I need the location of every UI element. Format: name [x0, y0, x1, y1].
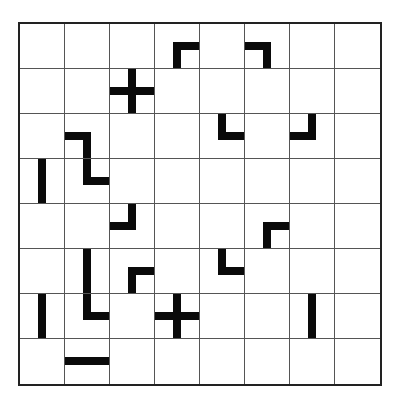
pipe-arm-down — [308, 312, 316, 338]
grid-cell-r5-c4[interactable] — [200, 249, 245, 294]
grid-cell-r7-c0[interactable] — [20, 339, 65, 384]
pipe-arm-down — [173, 42, 181, 68]
corner-pipe-icon — [155, 24, 199, 68]
grid-cell-r1-c5[interactable] — [245, 69, 290, 114]
pipe-arm-right — [128, 87, 154, 95]
corner-pipe-icon — [245, 204, 289, 248]
grid-cell-r5-c5[interactable] — [245, 249, 290, 294]
grid-cell-r2-c0[interactable] — [20, 114, 65, 159]
grid-cell-r5-c6[interactable] — [290, 249, 335, 294]
cross-pipe-icon — [155, 294, 199, 338]
grid-cell-r6-c3[interactable] — [155, 294, 200, 339]
pipe-arm-down — [38, 177, 46, 203]
pipe-arm-down — [263, 222, 271, 248]
grid-cell-r0-c1[interactable] — [65, 24, 110, 69]
cross-pipe-icon — [110, 69, 154, 113]
corner-pipe-icon — [65, 159, 109, 203]
grid-cell-r0-c7[interactable] — [335, 24, 380, 69]
pipe-arm-down — [128, 267, 136, 293]
corner-pipe-icon — [245, 24, 289, 68]
grid-cell-r0-c3[interactable] — [155, 24, 200, 69]
straight-pipe-icon — [20, 159, 64, 203]
corner-pipe-icon — [110, 249, 154, 293]
puzzle-board — [18, 22, 382, 386]
grid-cell-r0-c0[interactable] — [20, 24, 65, 69]
grid-cell-r3-c2[interactable] — [110, 159, 155, 204]
grid-cell-r2-c3[interactable] — [155, 114, 200, 159]
straight-pipe-icon — [65, 339, 109, 384]
grid-cell-r5-c2[interactable] — [110, 249, 155, 294]
pipe-arm-down — [83, 267, 91, 293]
grid-cell-r3-c3[interactable] — [155, 159, 200, 204]
grid-cell-r7-c5[interactable] — [245, 339, 290, 384]
grid-cell-r7-c7[interactable] — [335, 339, 380, 384]
straight-pipe-icon — [290, 294, 334, 338]
grid-cell-r7-c2[interactable] — [110, 339, 155, 384]
grid-cell-r1-c1[interactable] — [65, 69, 110, 114]
grid-cell-r0-c5[interactable] — [245, 24, 290, 69]
corner-pipe-icon — [200, 114, 244, 158]
grid-cell-r5-c1[interactable] — [65, 249, 110, 294]
grid-cell-r6-c0[interactable] — [20, 294, 65, 339]
corner-pipe-icon — [110, 204, 154, 248]
grid-cell-r4-c6[interactable] — [290, 204, 335, 249]
grid-cell-r0-c6[interactable] — [290, 24, 335, 69]
grid-cell-r1-c4[interactable] — [200, 69, 245, 114]
grid-cell-r4-c4[interactable] — [200, 204, 245, 249]
grid-cell-r4-c7[interactable] — [335, 204, 380, 249]
grid-cell-r6-c5[interactable] — [245, 294, 290, 339]
pipe-arm-down — [83, 132, 91, 158]
grid-cell-r1-c7[interactable] — [335, 69, 380, 114]
grid-cell-r3-c4[interactable] — [200, 159, 245, 204]
grid-cell-r3-c0[interactable] — [20, 159, 65, 204]
grid-cell-r6-c6[interactable] — [290, 294, 335, 339]
pipe-arm-down — [263, 42, 271, 68]
corner-pipe-icon — [65, 114, 109, 158]
grid-cell-r3-c5[interactable] — [245, 159, 290, 204]
grid-cell-r4-c2[interactable] — [110, 204, 155, 249]
grid-cell-r7-c1[interactable] — [65, 339, 110, 384]
grid-cell-r4-c3[interactable] — [155, 204, 200, 249]
grid-cell-r5-c0[interactable] — [20, 249, 65, 294]
pipe-arm-down — [38, 312, 46, 338]
grid-cell-r7-c3[interactable] — [155, 339, 200, 384]
grid-cell-r1-c3[interactable] — [155, 69, 200, 114]
grid-cell-r3-c7[interactable] — [335, 159, 380, 204]
pipe-arm-right — [218, 132, 244, 140]
grid-cell-r2-c7[interactable] — [335, 114, 380, 159]
grid-cell-r4-c0[interactable] — [20, 204, 65, 249]
straight-pipe-icon — [20, 294, 64, 338]
pipe-arm-right — [83, 312, 109, 320]
grid-cell-r4-c5[interactable] — [245, 204, 290, 249]
pipe-arm-right — [218, 267, 244, 275]
grid-cell-r2-c2[interactable] — [110, 114, 155, 159]
grid-cell-r1-c2[interactable] — [110, 69, 155, 114]
straight-pipe-icon — [65, 249, 109, 293]
grid-cell-r7-c6[interactable] — [290, 339, 335, 384]
grid-cell-r2-c4[interactable] — [200, 114, 245, 159]
grid-cell-r2-c5[interactable] — [245, 114, 290, 159]
grid-cell-r3-c6[interactable] — [290, 159, 335, 204]
grid-cell-r3-c1[interactable] — [65, 159, 110, 204]
corner-pipe-icon — [200, 249, 244, 293]
pipe-arm-right — [173, 312, 199, 320]
grid-cell-r5-c7[interactable] — [335, 249, 380, 294]
grid-cell-r4-c1[interactable] — [65, 204, 110, 249]
corner-pipe-icon — [290, 114, 334, 158]
pipe-arm-right — [83, 177, 109, 185]
grid-cell-r2-c6[interactable] — [290, 114, 335, 159]
grid-cell-r1-c6[interactable] — [290, 69, 335, 114]
grid-cell-r6-c2[interactable] — [110, 294, 155, 339]
grid-cell-r0-c4[interactable] — [200, 24, 245, 69]
pipe-arm-right — [83, 357, 109, 365]
corner-pipe-icon — [65, 294, 109, 338]
grid-cell-r1-c0[interactable] — [20, 69, 65, 114]
pipe-arm-left — [290, 132, 316, 140]
grid-cell-r0-c2[interactable] — [110, 24, 155, 69]
grid-cell-r6-c1[interactable] — [65, 294, 110, 339]
grid-cell-r2-c1[interactable] — [65, 114, 110, 159]
grid-cell-r6-c4[interactable] — [200, 294, 245, 339]
grid-cell-r5-c3[interactable] — [155, 249, 200, 294]
grid-cell-r6-c7[interactable] — [335, 294, 380, 339]
grid-cell-r7-c4[interactable] — [200, 339, 245, 384]
